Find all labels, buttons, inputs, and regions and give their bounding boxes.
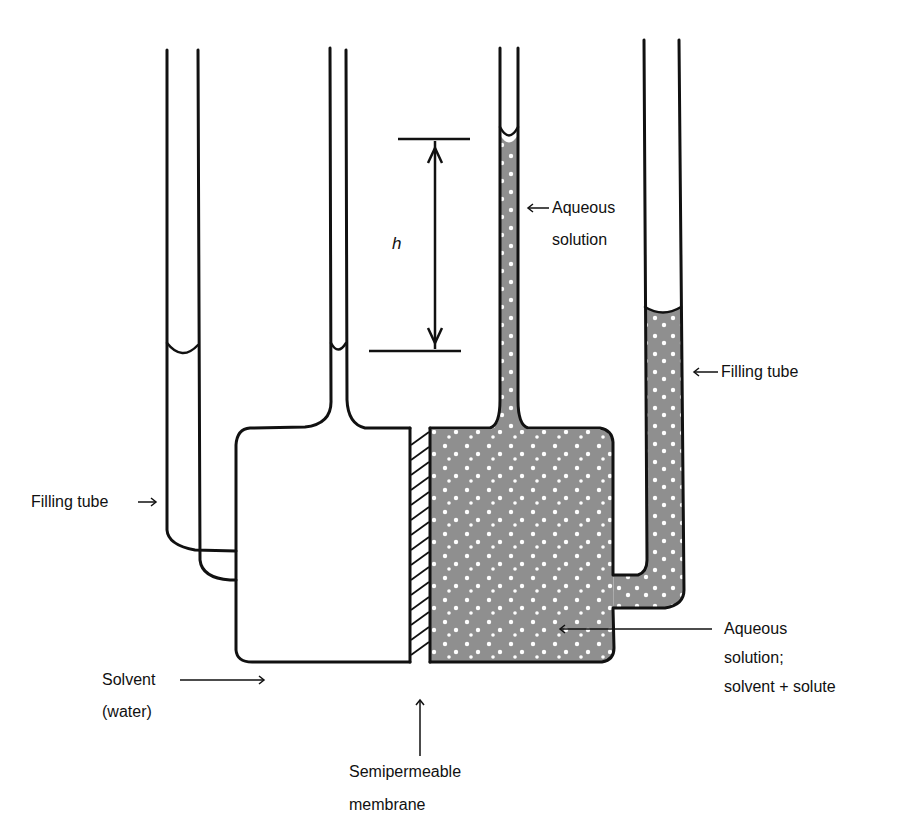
membrane-label-line1: Semipermeable [349, 760, 461, 784]
solvent-label-line1: Solvent [102, 668, 155, 692]
label-arrows [138, 204, 718, 756]
height-dimension-marker [369, 139, 470, 351]
aqueous-solution-label-line1: Aqueous [724, 617, 787, 641]
filling-tube-right-label: Filling tube [721, 360, 798, 384]
aqueous-solution-top-label-line2: solution [552, 228, 607, 252]
height-label: h [392, 232, 401, 256]
semipermeable-membrane-hatch [411, 432, 429, 655]
aqueous-solution-label-line3: solvent + solute [724, 675, 836, 699]
membrane-label-line2: membrane [349, 793, 425, 817]
aqueous-solution-label-line2: solution; [724, 646, 784, 670]
solvent-label-line2: (water) [102, 700, 152, 724]
aqueous-solution-top-label-line1: Aqueous [552, 196, 615, 220]
filling-tube-left-label: Filling tube [31, 490, 108, 514]
